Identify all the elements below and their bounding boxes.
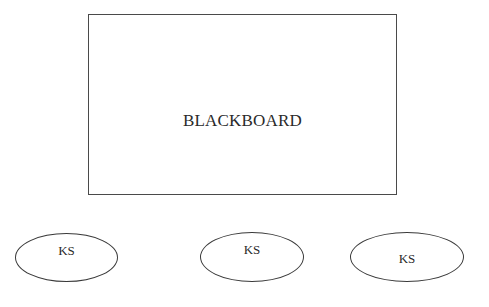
knowledge-source-3: KS [350, 232, 464, 282]
knowledge-source-label: KS [201, 242, 303, 257]
knowledge-source-1: KS [15, 233, 118, 282]
knowledge-source-label: KS [351, 251, 463, 266]
knowledge-source-2: KS [200, 232, 304, 282]
knowledge-source-label: KS [16, 243, 117, 258]
blackboard-box: BLACKBOARD [88, 14, 397, 195]
blackboard-label: BLACKBOARD [89, 111, 396, 131]
